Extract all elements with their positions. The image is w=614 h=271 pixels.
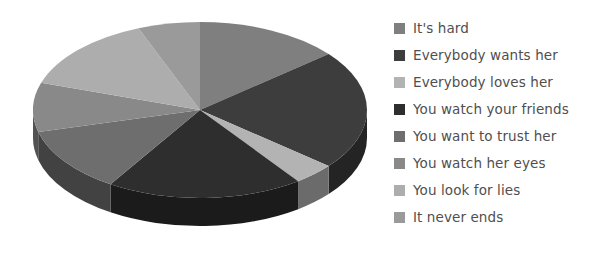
legend-item-label: You watch your friends (413, 103, 569, 117)
legend-swatch-icon (394, 104, 405, 115)
legend-swatch-icon (394, 212, 405, 223)
chart-legend: It's hard Everybody wants her Everybody … (390, 15, 614, 255)
pie-chart-svg (0, 0, 390, 271)
legend-item[interactable]: You watch your friends (390, 96, 614, 123)
legend-swatch-icon (394, 77, 405, 88)
legend-item[interactable]: Everybody loves her (390, 69, 614, 96)
pie-chart-figure: It's hard Everybody wants her Everybody … (0, 0, 614, 271)
legend-item[interactable]: You want to trust her (390, 123, 614, 150)
legend-item[interactable]: It's hard (390, 15, 614, 42)
legend-item-label: It's hard (413, 22, 469, 36)
legend-item[interactable]: Everybody wants her (390, 42, 614, 69)
legend-swatch-icon (394, 23, 405, 34)
legend-item[interactable]: You look for lies (390, 177, 614, 204)
pie-top-slices (33, 22, 367, 198)
legend-item-label: You watch her eyes (413, 157, 546, 171)
legend-item-label: Everybody wants her (413, 49, 558, 63)
legend-item-label: You look for lies (413, 184, 520, 198)
legend-swatch-icon (394, 158, 405, 169)
legend-swatch-icon (394, 50, 405, 61)
legend-swatch-icon (394, 131, 405, 142)
legend-item-label: Everybody loves her (413, 76, 553, 90)
pie-plot-area (0, 0, 390, 271)
legend-item-label: You want to trust her (413, 130, 556, 144)
legend-item-label: It never ends (413, 211, 503, 225)
legend-item[interactable]: You watch her eyes (390, 150, 614, 177)
legend-swatch-icon (394, 185, 405, 196)
legend-item[interactable]: It never ends (390, 204, 614, 231)
